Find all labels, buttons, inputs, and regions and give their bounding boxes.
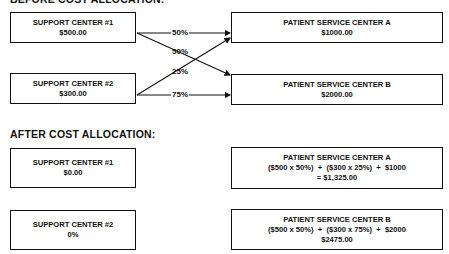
allocation-label-s1-a: 50%	[171, 28, 189, 37]
allocation-label-s2-b: 75%	[171, 90, 189, 99]
support-center-1-after: SUPPORT CENTER #1 $0.00	[10, 148, 136, 188]
allocation-label-s1-b: 50%	[171, 47, 189, 56]
support-center-2-after: SUPPORT CENTER #2 0%	[10, 210, 136, 250]
center-formula: ($500 x 50%) + ($300 x 25%) + $1000	[268, 163, 406, 173]
center-value: = $1,325.00	[317, 173, 357, 183]
center-value: 0%	[68, 230, 79, 240]
center-formula: ($500 x 50%) + ($300 x 75%) + $2000	[268, 225, 406, 235]
center-name: PATIENT SERVICE CENTER B	[283, 215, 391, 225]
after-heading: AFTER COST ALLOCATION:	[10, 128, 156, 140]
allocation-label-s2-a: 25%	[171, 67, 189, 76]
center-value: $2475.00	[321, 235, 353, 245]
patient-center-a-after: PATIENT SERVICE CENTER A ($500 x 50%) + …	[231, 147, 443, 189]
patient-center-b-after: PATIENT SERVICE CENTER B ($500 x 50%) + …	[231, 209, 443, 250]
center-name: SUPPORT CENTER #1	[33, 158, 114, 168]
center-name: PATIENT SERVICE CENTER A	[283, 153, 390, 163]
center-name: SUPPORT CENTER #2	[33, 220, 114, 230]
center-value: $0.00	[63, 168, 82, 178]
